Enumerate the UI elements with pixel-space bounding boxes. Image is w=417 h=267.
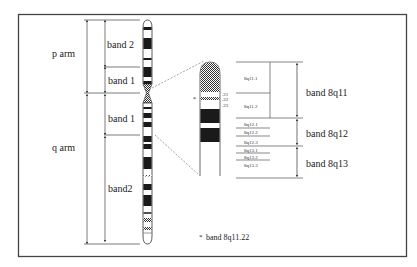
sub-band-label: 8q13.2 <box>244 155 258 160</box>
footnote-text: band 8q11.22 <box>206 233 249 242</box>
asterisk-marker: * <box>193 96 196 102</box>
footnote-marker: * <box>199 233 203 241</box>
band-8q13-label: band 8q13 <box>306 158 348 169</box>
q-band1-label: band 1 <box>108 113 135 124</box>
sub-band-22-label: .22 <box>222 97 229 102</box>
sub-band-label: 8q12.3 <box>244 140 258 145</box>
zoom-projection-bottom <box>155 135 199 175</box>
p-band1-label: band 1 <box>108 75 135 86</box>
sub-band-label: 8q13.3 <box>244 163 258 168</box>
sub-band-label: 8q13.1 <box>244 148 258 153</box>
sub-band-label: 8q12.2 <box>244 130 258 135</box>
sub-band-label: 8q12.1 <box>244 122 258 127</box>
band-8q11-label: band 8q11 <box>306 87 348 98</box>
arm-brackets <box>84 20 140 244</box>
p-arm-label: p arm <box>52 48 75 59</box>
sub-band-23-label: .23 <box>222 103 229 108</box>
chromosome-diagram: p arm q arm band 2 band 1 band 1 band2 <box>0 0 417 267</box>
zoomed-region <box>200 62 220 176</box>
q-arm-label: q arm <box>52 142 75 153</box>
zoom-projection-top <box>152 61 204 88</box>
q-band2-label: band2 <box>108 183 132 194</box>
band-8q12-label: band 8q12 <box>306 128 348 139</box>
chromosome-8-ideogram <box>143 20 152 244</box>
sub-band-label: 8q11.1 <box>244 76 258 81</box>
p-band2-label: band 2 <box>107 39 134 50</box>
sub-band-label: 8q11.2 <box>244 104 258 109</box>
